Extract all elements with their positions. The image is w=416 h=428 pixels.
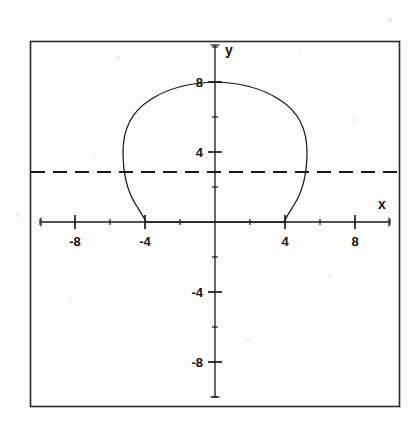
y-tick-label--8: -8 [191,355,203,370]
x-tick-label-8: 8 [351,234,358,249]
x-tick-label--4: -4 [139,234,151,249]
paper-background [0,0,416,428]
y-axis-label: y [225,42,233,58]
x-axis-label: x [378,196,386,212]
graph-figure: -8 -4 4 8 8 4 -4 -8 x y [0,0,416,428]
y-tick-label--4: -4 [191,285,203,300]
x-tick-label-4: 4 [281,234,289,249]
y-tick-label-4: 4 [196,145,204,160]
x-tick-label--8: -8 [69,234,81,249]
